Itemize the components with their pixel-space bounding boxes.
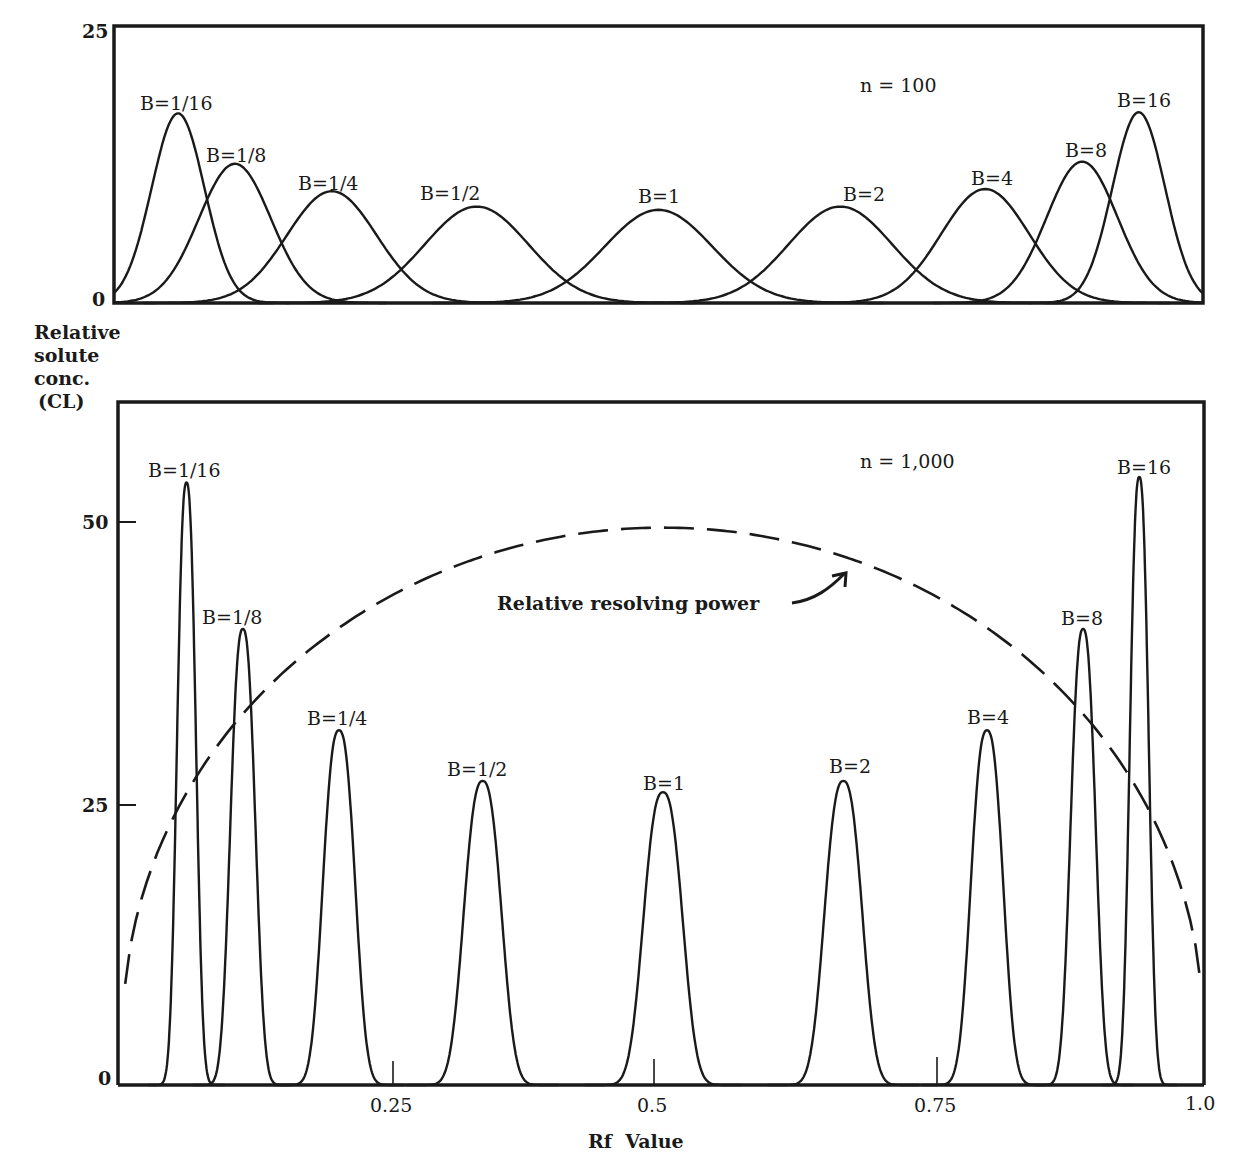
peak-curve-b-1-16: [114, 113, 289, 303]
peak-curve-b-1: [433, 210, 885, 303]
bottom-label-b-8: B=8: [1061, 607, 1103, 629]
arrow-icon: [792, 574, 844, 603]
top-label-b-16: B=16: [1117, 89, 1171, 111]
bottom-plot-frame: [118, 402, 1204, 1085]
top-label-b-1-16: B=1/16: [140, 92, 213, 114]
ylabel-line-3: conc.: [34, 367, 90, 389]
peak-curve-b-1-4: [274, 730, 404, 1085]
xtick-075: 0.75: [914, 1094, 956, 1116]
top-label-b-1: B=1: [638, 185, 680, 207]
bottom-ytick-0: 0: [98, 1067, 111, 1089]
bottom-label-b-1-2: B=1/2: [447, 758, 507, 780]
peak-curve-b-2: [768, 781, 919, 1085]
bottom-label-b-1-8: B=1/8: [202, 606, 262, 628]
top-ytick-25: 25: [82, 20, 108, 42]
bottom-peak-labels: B=1/16 B=1/8 B=1/4 B=1/2 B=1 B=2 B=4 B=8…: [148, 456, 1171, 794]
top-annotation-n: n = 100: [860, 74, 937, 96]
peak-curve-b-1: [585, 792, 742, 1085]
top-peak-curves: [114, 112, 1203, 303]
peak-curve-b-1-8: [193, 629, 294, 1085]
peak-curve-b-16: [1102, 477, 1178, 1085]
ylabel-line-4: (CL): [38, 390, 84, 412]
bottom-label-b-1-16: B=1/16: [148, 459, 221, 481]
xtick-05: 0.5: [637, 1094, 667, 1116]
peak-curve-b-1-2: [407, 781, 558, 1085]
xtick-025: 0.25: [370, 1094, 412, 1116]
bottom-ytick-50: 50: [82, 511, 108, 533]
peak-curve-b-1-4: [144, 191, 521, 303]
peak-curve-b-4: [922, 730, 1052, 1085]
chart-canvas: 25 0 n = 100 B=1/16 B=1/8 B=1/4 B=1/2 B=…: [0, 0, 1257, 1173]
bottom-label-b-1: B=1: [643, 772, 685, 794]
top-label-b-8: B=8: [1065, 139, 1107, 161]
top-label-b-1-4: B=1/4: [298, 172, 358, 194]
xtick-10: 1.0: [1185, 1092, 1215, 1114]
top-label-b-2: B=2: [843, 183, 885, 205]
top-label-b-1-8: B=1/8: [206, 144, 266, 166]
bottom-label-b-2: B=2: [829, 755, 871, 777]
y-axis-label: Relative solute conc. (CL): [34, 321, 121, 412]
peak-curve-b-1-16: [148, 483, 224, 1085]
peak-curve-b-16: [1028, 112, 1203, 303]
top-label-b-1-2: B=1/2: [420, 182, 480, 204]
resolving-power-label: Relative resolving power: [497, 592, 760, 614]
bottom-panel: 50 25 0 0.25 0.5 0.75 1.0 Rf Value n = 1…: [82, 402, 1215, 1152]
x-axis-label: Rf Value: [588, 1130, 684, 1152]
bottom-label-b-1-4: B=1/4: [307, 707, 367, 729]
bottom-annotation-n: n = 1,000: [860, 450, 955, 472]
peak-curve-b-4: [801, 189, 1170, 303]
top-plot-frame: [114, 26, 1203, 303]
bottom-ytick-25: 25: [82, 794, 108, 816]
top-label-b-4: B=4: [971, 167, 1013, 189]
bottom-label-b-16: B=16: [1117, 456, 1171, 478]
ylabel-line-1: Relative: [34, 321, 121, 343]
top-panel: 25 0 n = 100 B=1/16 B=1/8 B=1/4 B=1/2 B=…: [82, 20, 1203, 310]
peak-curve-b-8: [1033, 629, 1134, 1085]
ylabel-line-2: solute: [34, 344, 99, 366]
top-peak-labels: B=1/16 B=1/8 B=1/4 B=1/2 B=1 B=2 B=4 B=8…: [140, 89, 1171, 207]
bottom-label-b-4: B=4: [967, 706, 1009, 728]
top-ytick-0: 0: [92, 288, 105, 310]
